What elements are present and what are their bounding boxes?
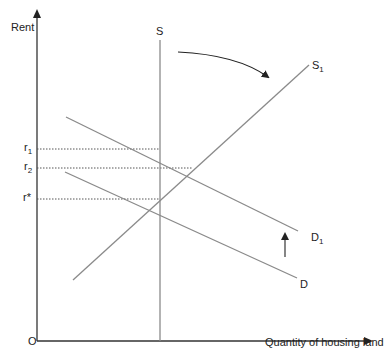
d1-sub: 1 (319, 237, 323, 246)
s-main: S (156, 25, 163, 37)
d1-label: D1 (311, 232, 323, 246)
r2-label: r2 (24, 161, 32, 175)
supply-shift-arrow-icon (178, 52, 268, 77)
s1-sub: 1 (319, 65, 323, 74)
demand-curve-d (65, 172, 297, 278)
origin-label: O (28, 336, 37, 347)
supply-demand-diagram (0, 0, 387, 352)
rstar-main: r* (23, 191, 31, 203)
d1-main: D (311, 231, 319, 243)
d-label: D (300, 279, 308, 290)
s1-label: S1 (312, 60, 324, 74)
r1-label: r1 (24, 142, 32, 156)
demand-curve-d1 (66, 117, 298, 231)
rstar-label: r* (23, 192, 31, 203)
r2-sub: 2 (28, 166, 32, 175)
d-main: D (300, 278, 308, 290)
y-axis-arrow-icon (33, 9, 41, 18)
x-axis-label: Quantity of housing land (265, 337, 384, 348)
y-axis-label: Rent (11, 22, 34, 33)
supply-curve-s1 (73, 65, 309, 280)
r1-sub: 1 (28, 147, 32, 156)
s-label: S (156, 26, 163, 37)
